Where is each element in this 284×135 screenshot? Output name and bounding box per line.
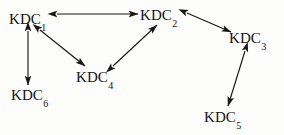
node-kdc1: KDC1 [9,12,46,27]
node-kdc4: KDC4 [76,70,113,85]
node-kdc6-subscript: 6 [43,98,48,109]
node-kdc2-base: KDC [140,7,172,23]
node-kdc5: KDC5 [204,110,241,125]
node-kdc3-base: KDC [229,30,261,46]
edge-kdc3-kdc5 [228,51,245,106]
node-kdc4-subscript: 4 [108,80,113,91]
edge-kdc1-kdc4 [40,30,85,66]
node-kdc4-base: KDC [76,69,108,85]
edge-kdc4-kdc2 [113,25,157,66]
node-kdc3: KDC3 [229,31,266,46]
edge-kdc2-kdc3 [187,13,231,32]
node-kdc6: KDC6 [11,88,48,103]
node-kdc6-base: KDC [11,87,43,103]
node-kdc1-subscript: 1 [41,22,46,33]
node-kdc1-base: KDC [9,11,41,27]
node-kdc5-base: KDC [204,109,236,125]
node-kdc3-subscript: 3 [261,41,266,52]
node-kdc5-subscript: 5 [236,120,241,131]
kdc-topology-diagram: KDC1 KDC2 KDC3 KDC4 KDC5 KDC6 [0,0,284,135]
node-kdc2: KDC2 [140,8,177,23]
node-kdc2-subscript: 2 [172,18,177,29]
